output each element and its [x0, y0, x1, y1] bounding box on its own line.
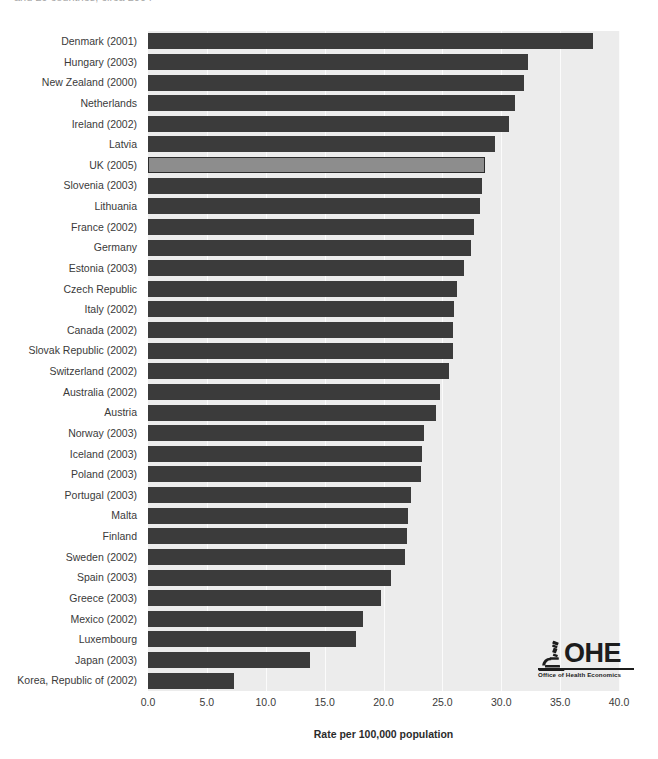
x-axis-tick-label: 0.0 — [118, 696, 178, 708]
bar-row — [148, 547, 619, 568]
bar-row — [148, 93, 619, 114]
y-axis-tick-label: Ireland (2002) — [0, 114, 143, 135]
bar — [148, 33, 593, 49]
bar-row — [148, 196, 619, 217]
x-axis-tick-label: 25.0 — [412, 696, 472, 708]
bar-row — [148, 279, 619, 300]
y-axis-tick-label: Korea, Republic of (2002) — [0, 670, 143, 691]
bar-row — [148, 72, 619, 93]
y-axis-tick-label: Austria — [0, 402, 143, 423]
bar-row — [148, 155, 619, 176]
bar-row — [148, 609, 619, 630]
bar — [148, 178, 482, 194]
bar — [148, 570, 391, 586]
ohe-tagline: Office of Health Economics — [538, 671, 621, 678]
y-axis-tick-label: Czech Republic — [0, 279, 143, 300]
y-axis-tick-label: Estonia (2003) — [0, 258, 143, 279]
y-axis-tick-label: Finland — [0, 526, 143, 547]
bar-row — [148, 464, 619, 485]
bar — [148, 466, 421, 482]
bar-row — [148, 444, 619, 465]
bar — [148, 136, 495, 152]
bar-row — [148, 340, 619, 361]
chart-title: and 29 countries, circa 2004 — [14, 0, 152, 3]
bar — [148, 446, 422, 462]
bar — [148, 611, 363, 627]
bar-row — [148, 567, 619, 588]
ohe-rule — [538, 668, 634, 670]
y-axis-tick-label: Denmark (2001) — [0, 31, 143, 52]
bar — [148, 75, 524, 91]
y-axis-tick-label: Germany — [0, 237, 143, 258]
y-axis-tick-label: Greece (2003) — [0, 588, 143, 609]
plot-area — [148, 31, 619, 691]
y-axis-tick-label: France (2002) — [0, 217, 143, 238]
bar-row — [148, 320, 619, 341]
bar-row — [148, 505, 619, 526]
bar-row — [148, 382, 619, 403]
y-axis-tick-label: Latvia — [0, 134, 143, 155]
chart-figure: and 29 countries, circa 2004 Denmark (20… — [0, 0, 658, 759]
y-axis-tick-label: New Zealand (2000) — [0, 72, 143, 93]
bar-row — [148, 299, 619, 320]
y-axis-tick-label: Australia (2002) — [0, 382, 143, 403]
bar-row — [148, 114, 619, 135]
x-axis-tick-label: 30.0 — [471, 696, 531, 708]
ohe-logo: OHE Office of Health Economics — [536, 638, 636, 684]
gridline — [619, 31, 620, 691]
y-axis-tick-label: Luxembourg — [0, 629, 143, 650]
x-axis-tick-label: 35.0 — [530, 696, 590, 708]
y-axis-tick-label: Switzerland (2002) — [0, 361, 143, 382]
bar — [148, 363, 449, 379]
ohe-wordmark: OHE — [564, 638, 621, 668]
bars-container — [148, 31, 619, 691]
y-axis-tick-label: Iceland (2003) — [0, 444, 143, 465]
bar — [148, 528, 407, 544]
y-axis-tick-label: UK (2005) — [0, 155, 143, 176]
y-axis-tick-label: Slovenia (2003) — [0, 175, 143, 196]
bar-row — [148, 52, 619, 73]
y-axis-tick-label: Sweden (2002) — [0, 547, 143, 568]
bar — [148, 384, 440, 400]
x-axis-tick-label: 15.0 — [295, 696, 355, 708]
bar-row — [148, 134, 619, 155]
bar — [148, 260, 464, 276]
y-axis-tick-label: Lithuania — [0, 196, 143, 217]
bar — [148, 301, 454, 317]
y-axis-tick-label: Poland (2003) — [0, 464, 143, 485]
bar — [148, 240, 471, 256]
bar — [148, 590, 381, 606]
y-axis-tick-label: Mexico (2002) — [0, 609, 143, 630]
bar-row — [148, 175, 619, 196]
y-axis-tick-label: Japan (2003) — [0, 650, 143, 671]
bar-row — [148, 237, 619, 258]
bar — [148, 116, 509, 132]
bar-row — [148, 588, 619, 609]
bar — [148, 405, 436, 421]
x-axis-label: Rate per 100,000 population — [148, 728, 619, 740]
y-axis-tick-label: Malta — [0, 505, 143, 526]
bar — [148, 508, 408, 524]
bar — [148, 219, 474, 235]
bar — [148, 322, 453, 338]
bar-row — [148, 485, 619, 506]
bar-highlighted — [148, 157, 485, 173]
bar-row — [148, 361, 619, 382]
y-axis-tick-label: Portugal (2003) — [0, 485, 143, 506]
bar — [148, 673, 234, 689]
bar — [148, 425, 424, 441]
x-axis-ticks: 0.05.010.015.020.025.030.035.040.0 — [0, 696, 658, 712]
bar-row — [148, 423, 619, 444]
y-axis-tick-label: Canada (2002) — [0, 320, 143, 341]
y-axis-tick-label: Norway (2003) — [0, 423, 143, 444]
bar — [148, 95, 515, 111]
bar — [148, 652, 310, 668]
bar — [148, 549, 405, 565]
bar-row — [148, 31, 619, 52]
bar-row — [148, 258, 619, 279]
bar — [148, 198, 480, 214]
x-axis-tick-label: 40.0 — [589, 696, 649, 708]
bar — [148, 487, 411, 503]
y-axis-tick-label: Netherlands — [0, 93, 143, 114]
y-axis-tick-label: Hungary (2003) — [0, 52, 143, 73]
